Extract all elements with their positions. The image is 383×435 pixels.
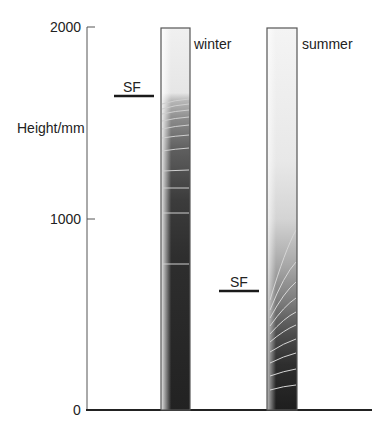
sf-winter-label: SF <box>123 79 141 95</box>
y-tick-label-0: 0 <box>73 402 81 418</box>
winter-label: winter <box>194 36 231 52</box>
summer-label: summer <box>302 36 353 52</box>
y-tick-label-2000: 2000 <box>50 19 81 35</box>
sf-summer-label: SF <box>230 274 248 290</box>
winter-column <box>161 28 190 410</box>
y-axis-label: Height/mm <box>17 120 85 136</box>
y-axis <box>87 27 95 410</box>
summer-column <box>267 28 297 410</box>
y-tick-label-1000: 1000 <box>50 211 81 227</box>
